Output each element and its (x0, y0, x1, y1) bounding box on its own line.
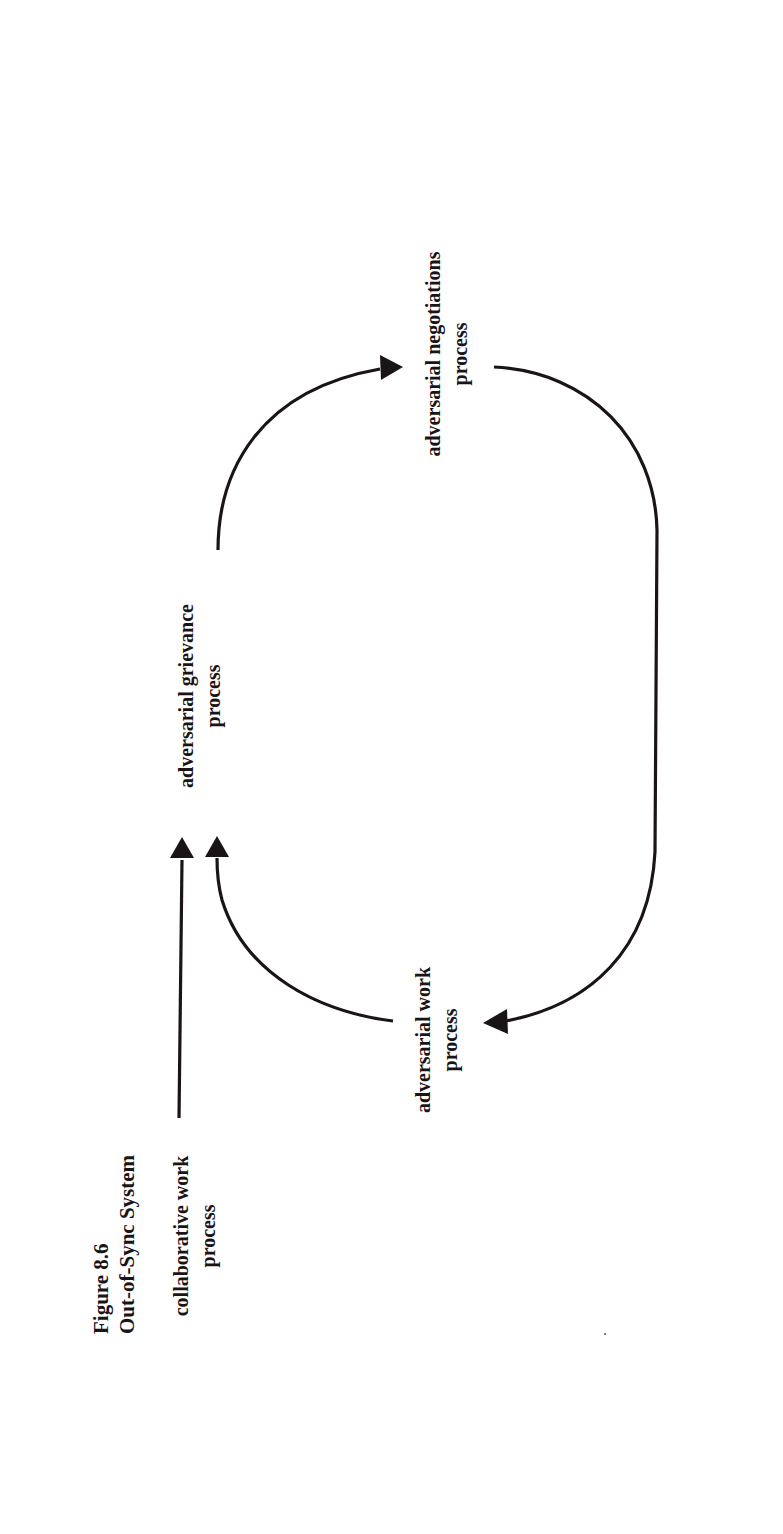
edge-line (179, 860, 182, 1118)
node-label-line2: process (195, 1138, 222, 1334)
arrowhead-icon (170, 837, 194, 858)
figure-caption: Figure 8.6 Out-of-Sync System (88, 1155, 141, 1334)
figure-title: Out-of-Sync System (114, 1155, 140, 1334)
edge-collaborative-to-grievance (170, 837, 194, 1118)
node-adversarial-negotiations-process: adversarial negotiations process (420, 230, 474, 478)
arrowhead-icon (380, 355, 403, 380)
node-label-line1: adversarial work (410, 950, 437, 1130)
arrowhead-icon (205, 836, 229, 857)
node-label-line2: process (437, 950, 464, 1130)
node-label-line1: adversarial negotiations (420, 230, 447, 478)
edge-grievance-to-negotiations (218, 355, 403, 550)
edge-adversarial-work-to-grievance (205, 836, 393, 1021)
node-collaborative-work-process: collaborative work process (168, 1138, 222, 1334)
edge-negotiations-to-adversarial-work (483, 367, 657, 1034)
node-adversarial-work-process: adversarial work process (410, 950, 464, 1130)
figure-canvas: Figure 8.6 Out-of-Sync System collaborat… (0, 0, 783, 1534)
node-label-line2: process (200, 584, 227, 808)
scan-speck (604, 1333, 606, 1335)
edge-curve (218, 369, 380, 550)
node-label-line1: collaborative work (168, 1138, 195, 1334)
node-label-line1: adversarial grievance (173, 584, 200, 808)
arrowhead-icon (483, 1009, 508, 1034)
edge-curve (217, 858, 393, 1021)
edge-curve (494, 367, 657, 1021)
node-label-line2: process (447, 230, 474, 478)
figure-number: Figure 8.6 (88, 1155, 114, 1334)
node-adversarial-grievance-process: adversarial grievance process (173, 584, 227, 808)
